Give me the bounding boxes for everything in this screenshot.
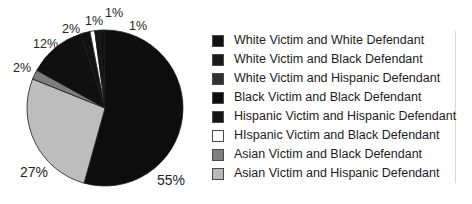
pie-percentage-label: 55% (157, 173, 185, 187)
pie-chart-plot-area: 55%27%2%12%2%1%1%1% (0, 0, 210, 204)
legend-item-label: Asian Victim and Black Defendant (234, 148, 422, 161)
pie-slice-group (27, 30, 183, 186)
legend-item: Asian Victim and Hispanic Defendant (208, 164, 455, 183)
legend-item: Hispanic Victim and Hispanic Defendant (208, 107, 455, 126)
legend-item: White Victim and Black Defendant (208, 50, 455, 69)
legend-item-label: White Victim and White Defendant (234, 34, 424, 47)
legend-item-label: Asian Victim and Hispanic Defendant (234, 167, 439, 180)
legend-color-swatch (212, 54, 224, 66)
pie-percentage-label: 1% (129, 20, 147, 33)
pie-percentage-label: 27% (20, 165, 48, 179)
legend-item-label: White Victim and Hispanic Defendant (234, 72, 440, 85)
legend-item: Black Victim and Black Defendant (208, 88, 455, 107)
pie-chart-figure: 55%27%2%12%2%1%1%1% White Victim and Whi… (0, 0, 472, 204)
legend-item-label: White Victim and Black Defendant (234, 53, 423, 66)
pie-percentage-label: 2% (13, 62, 31, 75)
legend-color-swatch (212, 168, 224, 180)
legend-item: Asian Victim and Black Defendant (208, 145, 455, 164)
legend-color-swatch (212, 73, 224, 85)
legend-color-swatch (212, 149, 224, 161)
legend-item: White Victim and White Defendant (208, 31, 455, 50)
legend-color-swatch (212, 111, 224, 123)
legend-color-swatch (212, 130, 224, 142)
legend-item-label: Hispanic Victim and Hispanic Defendant (234, 110, 456, 123)
pie-percentage-label: 1% (85, 15, 103, 28)
legend-item: White Victim and Hispanic Defendant (208, 69, 455, 88)
pie-percentage-label: 2% (62, 23, 80, 36)
pie-percentage-label: 1% (105, 7, 123, 20)
legend-item-label: HIspanic Victim and Black Defendant (234, 129, 439, 142)
legend-item-label: Black Victim and Black Defendant (234, 91, 421, 104)
legend-item: HIspanic Victim and Black Defendant (208, 126, 455, 145)
legend-color-swatch (212, 35, 224, 47)
pie-percentage-label: 12% (33, 38, 58, 51)
legend-color-swatch (212, 92, 224, 104)
chart-legend: White Victim and White DefendantWhite Vi… (208, 31, 456, 183)
